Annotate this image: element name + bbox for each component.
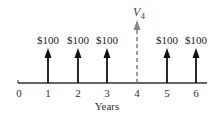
cash-flow-label-1: $100 (37, 35, 59, 46)
tick-label-5: 5 (164, 88, 170, 99)
tick-label-2: 2 (75, 88, 81, 99)
cash-flow-label-5: $100 (156, 35, 178, 46)
tick-label-4: 4 (134, 88, 140, 99)
tick-label-0: 0 (16, 88, 22, 99)
cash-flow-label-2: $100 (67, 35, 89, 46)
valuation-label: V4 (133, 6, 145, 21)
valuation-label-sub: 4 (140, 11, 145, 21)
cash-flow-label-6: $100 (185, 35, 207, 46)
tick-label-6: 6 (193, 88, 199, 99)
cash-flow-arrow-5 (164, 48, 171, 83)
cash-flow-arrow-1 (45, 48, 52, 83)
cash-flow-arrow-6 (193, 48, 200, 83)
tick-label-1: 1 (45, 88, 51, 99)
tick-label-3: 3 (104, 88, 110, 99)
cash-flow-arrow-3 (104, 48, 111, 83)
cash-flow-label-3: $100 (96, 35, 118, 46)
cash-flow-arrow-2 (75, 48, 82, 83)
valuation-arrow-dashed (134, 20, 141, 83)
x-axis-label: Years (95, 101, 120, 112)
